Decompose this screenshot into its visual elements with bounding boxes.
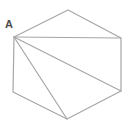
- diagonals-group: [14, 37, 121, 119]
- diagonal-a-to-bottom: [14, 37, 67, 119]
- diagonal-a-to-right-bottom: [14, 37, 121, 91]
- geometry-figure: A: [0, 0, 130, 126]
- hexagon-outline: [13, 10, 121, 119]
- vertex-label-a: A: [5, 18, 13, 30]
- diagonal-a-to-right-top: [14, 37, 121, 38]
- hexagon-diagram: A: [0, 0, 130, 126]
